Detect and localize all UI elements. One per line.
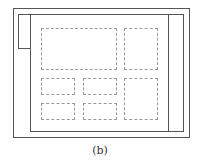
- top-right-block: [124, 28, 158, 70]
- right-divider: [168, 14, 169, 132]
- large-block: [41, 28, 117, 70]
- row3-mid-block: [83, 103, 117, 120]
- row3-left-block: [41, 103, 75, 120]
- tall-right-block: [124, 78, 158, 120]
- row2-mid-block: [83, 78, 117, 95]
- row2-left-block: [41, 78, 75, 95]
- figure-caption: (b): [0, 144, 200, 157]
